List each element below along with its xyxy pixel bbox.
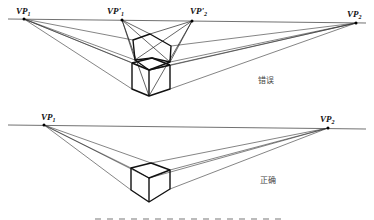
construction-lines-vp2-bottom: [149, 128, 328, 189]
vp-dots-bottom: [43, 124, 330, 130]
vp2-dot-top: [355, 22, 358, 25]
vp2-prime-dot: [191, 20, 194, 23]
vp1-prime-dot: [121, 19, 124, 22]
figure-caption-clipped: [95, 216, 285, 220]
label-wrong: 错误: [258, 77, 274, 85]
perspective-diagram: [0, 0, 374, 220]
panel-wrong: [8, 18, 366, 97]
horizon-line-bottom: [8, 125, 366, 129]
vp1-prime-label: VP'1: [107, 7, 124, 17]
label-right: 正确: [260, 177, 276, 185]
vp1-dot-bottom: [43, 124, 46, 127]
vp2-label-bottom: VP2: [320, 115, 335, 125]
cube-correct: [131, 163, 170, 202]
vp2-label-top: VP2: [347, 10, 362, 20]
construction-lines-vp1-bottom: [44, 125, 151, 190]
vp1-dot-top: [23, 18, 26, 21]
vp1-label-bottom: VP1: [41, 113, 56, 123]
panel-right: [8, 124, 366, 203]
vp2-dot-bottom: [327, 127, 330, 130]
vp1-label-top: VP1: [16, 7, 31, 17]
construction-lines-vp2-top: [150, 23, 356, 89]
construction-lines-vp1-top: [24, 19, 150, 89]
vp2-prime-label: VP'2: [190, 7, 207, 17]
